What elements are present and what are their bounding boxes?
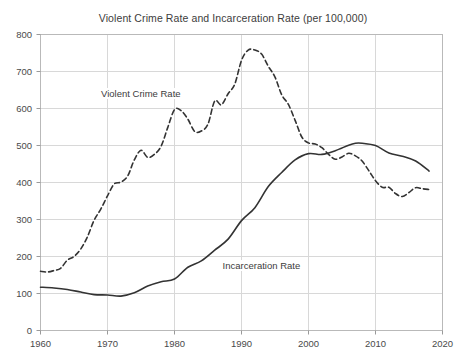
y-tick-label: 0	[2, 325, 32, 336]
y-tick-label: 600	[2, 103, 32, 114]
plot-area	[0, 0, 466, 361]
chart-figure: Violent Crime Rate and Incarceration Rat…	[0, 0, 466, 361]
grid-lines	[41, 35, 443, 331]
x-tick-label: 1970	[88, 338, 128, 349]
series-annotation: Incarceration Rate	[221, 260, 303, 271]
x-tick-label: 2020	[423, 338, 463, 349]
y-tick-label: 400	[2, 177, 32, 188]
x-tick-label: 1980	[155, 338, 195, 349]
y-tick-label: 100	[2, 288, 32, 299]
y-tick-label: 700	[2, 66, 32, 77]
y-tick-label: 300	[2, 214, 32, 225]
y-tick-label: 200	[2, 251, 32, 262]
y-tick-label: 800	[2, 29, 32, 40]
x-tick-label: 2000	[289, 338, 329, 349]
x-tick-label: 1960	[21, 338, 61, 349]
x-tick-label: 2010	[356, 338, 396, 349]
series-line-violent-crime-rate	[41, 49, 430, 272]
axis-ticks	[37, 35, 443, 335]
data-series	[41, 49, 430, 296]
x-tick-label: 1990	[222, 338, 262, 349]
y-tick-label: 500	[2, 140, 32, 151]
series-annotation: Violent Crime Rate	[99, 88, 183, 99]
